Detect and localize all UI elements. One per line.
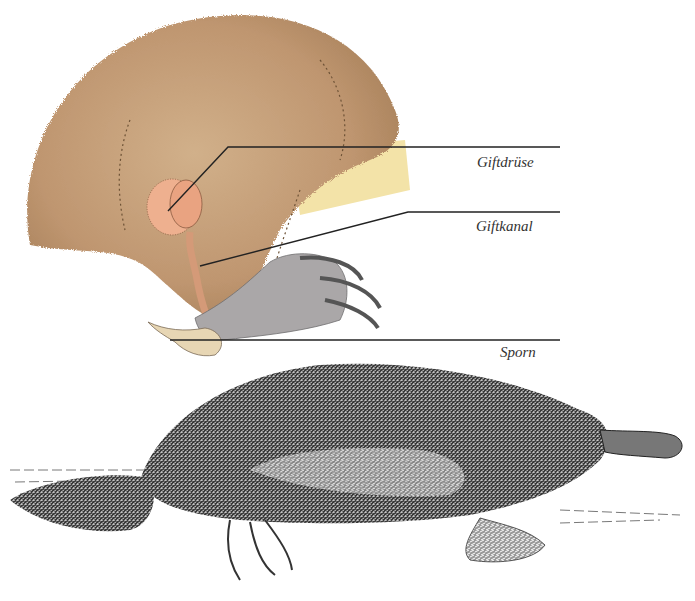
platypus-body (140, 364, 608, 524)
label-venom-gland: Giftdrüse (477, 154, 534, 171)
hip-closeup (27, 15, 410, 356)
venom-apparatus-diagram: Giftdrüse Giftkanal Sporn (0, 0, 695, 601)
label-venom-duct: Giftkanal (476, 218, 533, 235)
platypus-illustration (10, 364, 682, 580)
platypus-tail (10, 475, 154, 531)
label-spur: Sporn (500, 344, 536, 361)
platypus-front-foot (466, 518, 545, 562)
platypus-bill (600, 430, 682, 458)
illustration (0, 0, 695, 601)
platypus-hind-foot (228, 520, 292, 580)
